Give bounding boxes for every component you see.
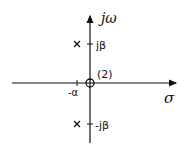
jomega-label: jω [98, 10, 117, 26]
pole-lower-icon [74, 121, 80, 127]
sigma-label: σ [164, 89, 175, 107]
zero-multiplicity-label: (2) [97, 68, 113, 81]
neg-alpha-label: -α [68, 87, 79, 98]
neg-jbeta-label: -jβ [95, 119, 109, 132]
pole-zero-plot: jω σ jβ -jβ -α (2) [0, 0, 185, 150]
jbeta-label: jβ [95, 39, 106, 52]
pole-upper-icon [74, 41, 80, 47]
